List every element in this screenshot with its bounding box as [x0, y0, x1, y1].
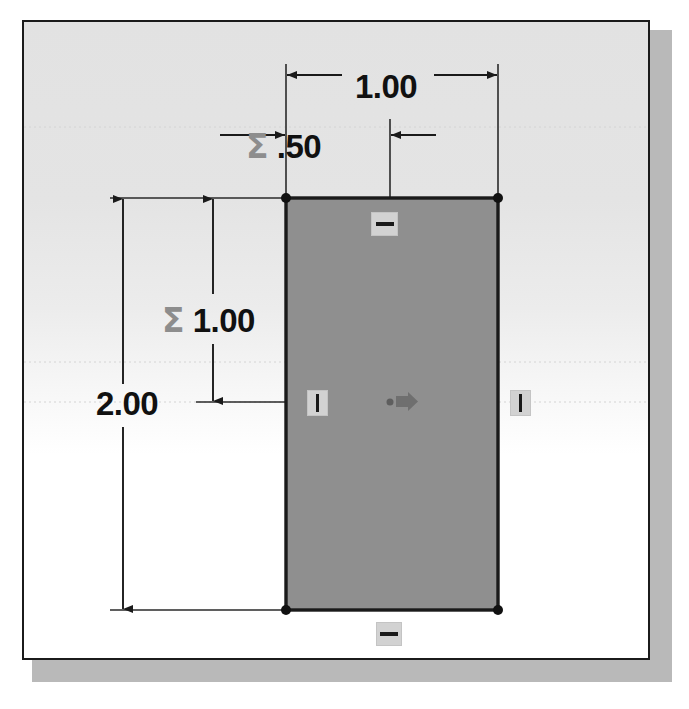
- constraint-vertical-right[interactable]: [510, 390, 531, 416]
- dimension-label-height[interactable]: 2.00: [96, 387, 158, 420]
- dimension-value-width: 1.00: [355, 68, 417, 105]
- horizontal-constraint-icon: [380, 632, 397, 636]
- dimension-value-half-width: .50: [277, 128, 321, 165]
- constraint-horizontal-bottom[interactable]: [376, 622, 402, 646]
- constraint-horizontal-top[interactable]: [371, 212, 398, 236]
- vertical-constraint-icon: [519, 394, 522, 412]
- dimension-value-height: 2.00: [96, 385, 158, 422]
- sketch-geometry: [24, 22, 650, 660]
- dimension-label-width[interactable]: 1.00: [355, 70, 417, 103]
- driven-sigma-icon: Σ: [246, 127, 268, 166]
- dimension-label-half-width[interactable]: Σ .50: [246, 130, 321, 163]
- drawing-stage[interactable]: 1.00 Σ .50 Σ 1.00 2.00: [24, 22, 648, 658]
- vertical-constraint-icon: [316, 394, 319, 412]
- sketch-canvas[interactable]: 1.00 Σ .50 Σ 1.00 2.00: [22, 20, 650, 660]
- dimension-value-height-sigma: 1.00: [193, 302, 255, 339]
- sketch-application: 1.00 Σ .50 Σ 1.00 2.00: [0, 0, 689, 709]
- driven-sigma-icon: Σ: [162, 301, 184, 340]
- horizontal-constraint-icon: [376, 222, 394, 226]
- constraint-vertical-left[interactable]: [307, 390, 328, 416]
- dimension-label-height-sigma[interactable]: Σ 1.00: [162, 304, 255, 337]
